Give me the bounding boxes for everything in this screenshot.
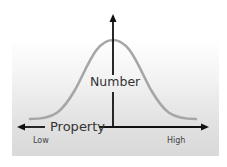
x-axis-label: Property	[49, 120, 106, 133]
arrow-right-icon	[201, 124, 209, 131]
arrow-left-icon	[17, 124, 25, 131]
bell-curve-diagram: Number Property Low High	[0, 0, 227, 167]
y-axis-arrow	[110, 14, 117, 127]
y-axis-label: Number	[89, 76, 141, 89]
x-axis-low-label: Low	[33, 137, 49, 145]
x-axis-high-label: High	[167, 137, 185, 145]
